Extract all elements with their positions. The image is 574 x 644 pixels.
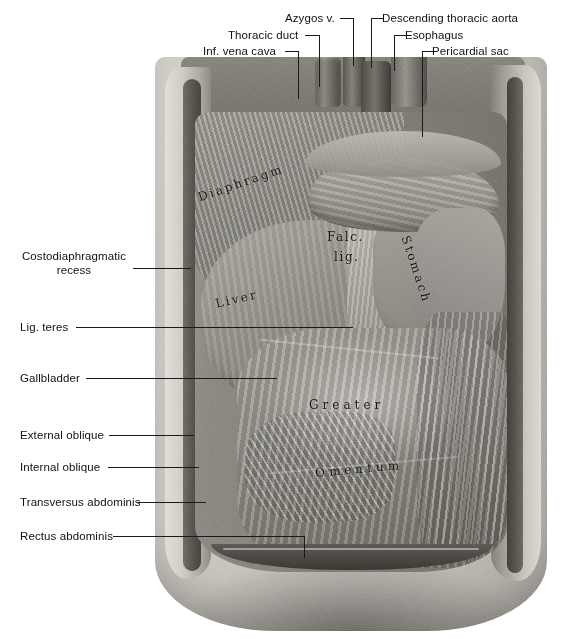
leader-thoracic-duct-v [319, 35, 320, 87]
label-pericardial-sac: Pericardial sac [432, 45, 509, 58]
label-rectus-abdominis: Rectus abdominis [20, 530, 113, 543]
leader-pericardial-v [422, 51, 423, 137]
leader-rectus-abdominis-drop [304, 536, 305, 558]
label-gallbladder: Gallbladder [20, 372, 80, 385]
leader-inf-vena-cava-h [285, 51, 299, 52]
label-costodiaphragmatic-recess: Costodiaphragmatic recess [20, 250, 128, 277]
leader-inf-vena-cava-v [298, 51, 299, 99]
label-lig-teres: Lig. teres [20, 321, 68, 334]
anatomical-figure: Diaphragm Falc. lig. Liver Stomach Great… [0, 0, 574, 644]
right-wall-muscle-layers [507, 77, 523, 573]
omentum-right-folds [417, 312, 507, 562]
leader-transversus-abdominis [137, 502, 206, 503]
leader-rectus-abdominis [113, 536, 305, 537]
leader-esophagus-v [394, 35, 395, 71]
leader-aorta-h [371, 18, 383, 19]
leader-azygos-h [340, 18, 354, 19]
leader-internal-oblique [108, 467, 199, 468]
label-external-oblique: External oblique [20, 429, 104, 442]
leader-external-oblique [109, 435, 194, 436]
annotation-ligament: lig. [334, 250, 360, 264]
leader-esophagus-h [394, 35, 406, 36]
leader-gallbladder [86, 378, 277, 379]
inferior-edge-highlight [223, 548, 479, 550]
label-descending-thoracic-aorta: Descending thoracic aorta [382, 12, 518, 25]
label-thoracic-duct: Thoracic duct [228, 29, 298, 42]
leader-aorta-v [371, 18, 372, 68]
leader-thoracic-duct-h [305, 35, 320, 36]
annotation-falciform: Falc. [327, 230, 364, 244]
label-inf-vena-cava: Inf. vena cava [203, 45, 276, 58]
torso-illustration [155, 57, 547, 631]
label-esophagus: Esophagus [405, 29, 463, 42]
annotation-greater: Greater [309, 398, 384, 412]
label-internal-oblique: Internal oblique [20, 461, 100, 474]
leader-lig-teres [76, 327, 353, 328]
label-transversus-abdominis: Transversus abdominis [20, 496, 141, 509]
leader-azygos-v [353, 18, 354, 66]
leader-pericardial-h [422, 51, 433, 52]
leader-costodiaphragmatic-recess [133, 268, 191, 269]
label-azygos-vein: Azygos v. [285, 12, 335, 25]
